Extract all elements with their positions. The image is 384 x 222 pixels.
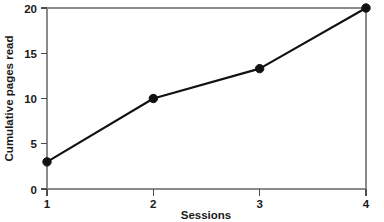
line-chart: 20 15 10 5 0 1 2 3 4 Sessions Cumulative…: [0, 0, 384, 222]
y-tick-label-5: 5: [31, 138, 38, 150]
y-axis-title: Cumulative pages read: [3, 36, 15, 162]
x-tick-label-1: 1: [44, 198, 51, 210]
y-tick-label-10: 10: [24, 93, 37, 105]
y-tick-label-0: 0: [31, 184, 37, 196]
data-point-4: [362, 4, 370, 12]
data-point-1: [43, 158, 51, 166]
data-point-2: [149, 94, 157, 102]
y-axis-tick-labels: 20 15 10 5 0: [24, 3, 37, 196]
x-axis-ticks: [47, 189, 366, 196]
series-markers: [43, 4, 370, 166]
x-tick-label-4: 4: [363, 198, 370, 210]
y-tick-label-15: 15: [24, 48, 37, 60]
x-tick-label-2: 2: [150, 198, 156, 210]
x-axis-title: Sessions: [181, 209, 232, 221]
data-series: [43, 4, 370, 166]
x-tick-label-3: 3: [256, 198, 262, 210]
series-line: [47, 8, 366, 162]
data-point-3: [255, 64, 263, 72]
y-tick-label-20: 20: [24, 3, 37, 15]
chart-container: 20 15 10 5 0 1 2 3 4 Sessions Cumulative…: [0, 0, 384, 222]
